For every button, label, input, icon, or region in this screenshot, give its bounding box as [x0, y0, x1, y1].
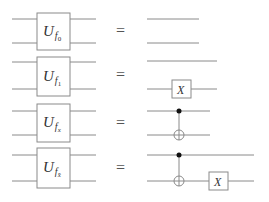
row-fxbar: Ufx̄ = X: [12, 148, 254, 190]
row-f0: Uf0 =: [12, 13, 199, 50]
x-gate-label: X: [213, 175, 222, 189]
control-dot-icon: [177, 153, 182, 158]
equals-sign: =: [116, 159, 125, 176]
control-dot-icon: [177, 109, 182, 114]
equals-sign: =: [116, 66, 125, 83]
row-f1: Uf1 = X: [12, 57, 217, 98]
equals-sign: =: [116, 22, 125, 39]
equals-sign: =: [116, 114, 125, 131]
x-gate-label: X: [176, 83, 185, 97]
row-fx: Ufx =: [12, 104, 210, 142]
circuit-diagram: Uf0 = Uf1 = X Ufx = Ufx̄ =: [0, 0, 269, 202]
